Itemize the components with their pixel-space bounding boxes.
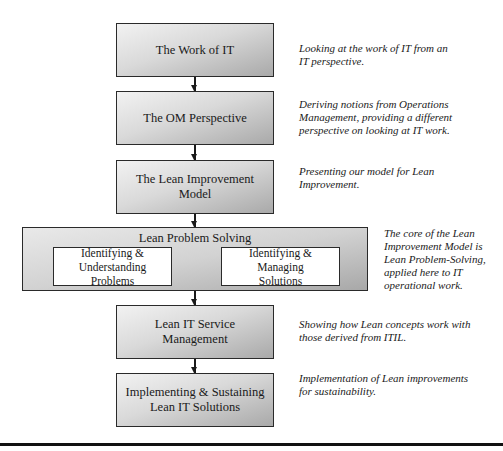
arrow-down-icon <box>194 214 196 227</box>
substep-label-line: Identifying & Managing <box>226 246 335 274</box>
description-line: Implementation of Lean improvements <box>299 372 468 385</box>
step-box-lean-improvement-model: The Lean Improvement Model <box>116 160 274 214</box>
description-line: Deriving notions from Operations <box>299 98 452 111</box>
description-line: The core of the Lean <box>384 227 486 240</box>
arrow-down-icon <box>194 359 196 373</box>
description-line: those derived from ITIL. <box>299 331 470 344</box>
step-box-lean-it-service-management: Lean IT Service Management <box>116 305 274 359</box>
step-box-work-of-it: The Work of IT <box>116 23 274 77</box>
arrow-down-icon <box>194 145 196 160</box>
step-label: Lean IT Service Management <box>123 317 267 347</box>
description-om-perspective: Deriving notions from Operations Managem… <box>299 98 452 137</box>
description-line: IT perspective. <box>299 55 448 68</box>
substep-label-line: Understanding Problems <box>58 260 167 288</box>
description-lean-problem-solving: The core of the Lean Improvement Model i… <box>384 227 486 292</box>
arrow-down-icon <box>194 77 196 91</box>
description-line: applied here to IT <box>384 266 486 279</box>
description-line: Improvement Model is <box>384 240 486 253</box>
description-line: Management, providing a different <box>299 111 452 124</box>
arrow-down-icon <box>194 291 196 305</box>
step-box-implementing-sustaining: Implementing & Sustaining Lean IT Soluti… <box>116 373 274 427</box>
description-line: Looking at the work of IT from an <box>299 42 448 55</box>
description-implementing-sustaining: Implementation of Lean improvements for … <box>299 372 468 398</box>
description-line: for sustainability. <box>299 385 468 398</box>
substep-label-line: Identifying & <box>81 246 144 260</box>
substep-box-identifying-managing-solutions: Identifying & Managing Solutions <box>221 247 340 286</box>
step-label: The Work of IT <box>156 43 234 58</box>
description-line: perspective on looking at IT work. <box>299 124 452 137</box>
step-label-line: Implementing & Sustaining <box>126 385 265 400</box>
description-line: Lean Problem-Solving, <box>384 253 486 266</box>
description-work-of-it: Looking at the work of IT from an IT per… <box>299 42 448 68</box>
substep-label-line: Solutions <box>259 274 302 288</box>
step-label-line: Lean IT Solutions <box>150 400 240 415</box>
step-label: The OM Perspective <box>143 111 246 126</box>
description-line: Presenting our model for Lean <box>299 165 434 178</box>
description-lean-improvement-model: Presenting our model for Lean Improvemen… <box>299 165 434 191</box>
step-label-line: The Lean Improvement <box>136 172 254 187</box>
step-label-line: Model <box>179 187 212 202</box>
description-lean-itsm: Showing how Lean concepts work with thos… <box>299 318 470 344</box>
container-title: Lean Problem Solving <box>23 231 367 246</box>
description-line: Improvement. <box>299 178 434 191</box>
substep-box-identifying-understanding-problems: Identifying & Understanding Problems <box>53 247 172 286</box>
description-line: Showing how Lean concepts work with <box>299 318 470 331</box>
step-box-om-perspective: The OM Perspective <box>116 91 274 145</box>
bottom-rule-divider <box>0 443 503 446</box>
description-line: operational work. <box>384 279 486 292</box>
